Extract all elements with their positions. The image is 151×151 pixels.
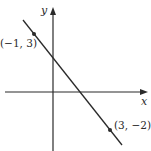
x-axis: x [5,89,148,108]
y-axis-label: y [40,4,48,17]
point-label-neg1-3: (−1, 3) [0,37,37,49]
coordinate-plane: x y (−1, 3) (3, −2) [0,0,151,151]
y-axis-arrow-icon [50,7,56,15]
point-marker-3-neg2 [108,128,112,132]
plotted-line [23,20,122,145]
point-marker-neg1-3 [32,32,36,36]
point-label-3-neg2: (3, −2) [114,119,151,131]
y-axis: y [40,4,56,151]
x-axis-label: x [141,95,148,108]
